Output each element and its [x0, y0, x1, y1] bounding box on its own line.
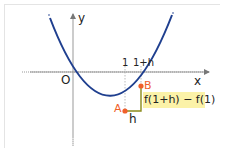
point-a-marker [122, 108, 127, 113]
point-b-label: B [144, 79, 152, 92]
x-axis-label: x [194, 74, 201, 88]
origin-label: O [61, 73, 70, 87]
x-tick-1-plus-h: 1+h [133, 57, 154, 68]
point-b-marker [138, 83, 143, 88]
function-graph [0, 0, 225, 152]
x-tick-1: 1 [122, 57, 128, 68]
point-a-label: A [114, 102, 122, 115]
horizontal-increment-label: h [129, 112, 137, 126]
y-axis-label: y [78, 11, 85, 25]
vertical-increment-label: f(1+h) − f(1) [144, 93, 215, 106]
